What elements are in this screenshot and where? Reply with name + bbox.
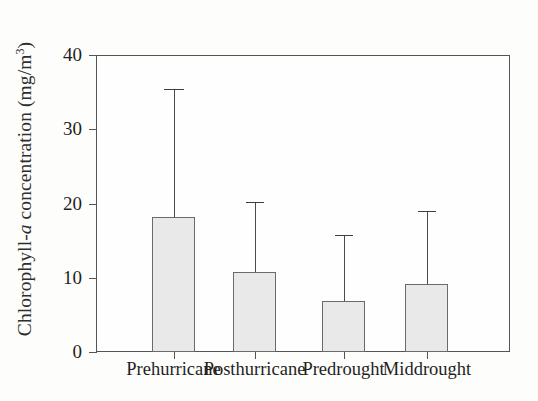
error-bar-stem-predrought [344, 235, 345, 301]
error-bar-cap-posthurricane [246, 202, 264, 203]
error-bar-stem-prehurricane [174, 89, 175, 217]
y-axis-title: Chlorophyll-a concentration (mg/m3) [14, 9, 36, 369]
bar-predrought [322, 301, 365, 352]
y-tick-label-0: 0 [48, 342, 82, 361]
error-bar-cap-middrought [418, 211, 436, 212]
error-bar-stem-posthurricane [255, 202, 256, 272]
y-axis-title-italic-a: a [14, 224, 35, 234]
x-tick-mark-middrought [427, 352, 428, 359]
x-axis-label-predrought: Predrought [293, 359, 394, 379]
bar-middrought [405, 284, 448, 352]
x-axis-label-middrought: Middrought [380, 359, 474, 379]
error-bar-stem-middrought [427, 211, 428, 284]
chart-figure: Chlorophyll-a concentration (mg/m3) 0 10… [0, 0, 538, 401]
x-tick-mark-posthurricane [255, 352, 256, 359]
y-axis-title-container: Chlorophyll-a concentration (mg/m3) [0, 0, 46, 401]
y-tick-label-40: 40 [48, 45, 82, 64]
x-tick-mark-prehurricane [174, 352, 175, 359]
y-axis-title-prefix: Chlorophyll- [14, 234, 35, 336]
y-tick-label-30: 30 [48, 119, 82, 138]
bar-posthurricane [233, 272, 276, 352]
error-bar-cap-predrought [335, 235, 353, 236]
x-tick-mark-predrought [344, 352, 345, 359]
y-tick-label-20: 20 [48, 194, 82, 213]
y-tick-mark-0 [89, 352, 97, 353]
bar-prehurricane [152, 217, 195, 352]
error-bar-cap-prehurricane [164, 89, 184, 90]
y-axis-title-superscript: 3 [13, 48, 27, 54]
y-tick-label-10: 10 [48, 268, 82, 287]
y-axis-title-mid: concentration (mg/m [14, 55, 35, 225]
y-axis-title-suffix: ) [14, 42, 35, 49]
